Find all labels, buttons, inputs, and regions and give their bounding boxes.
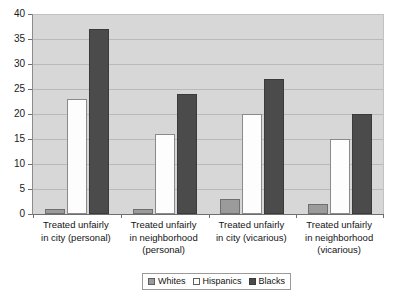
x-axis-labels: Treated unfairlyin city (personal)Treate… — [32, 219, 383, 267]
y-axis-tick-label: 20 — [14, 109, 25, 119]
y-axis-tick-label: 0 — [19, 209, 25, 219]
y-axis-tick-label: 15 — [14, 134, 25, 144]
legend-swatch-whites — [148, 278, 155, 285]
x-axis-category-label-line: (vicarious) — [295, 244, 383, 257]
y-axis-tick-label: 40 — [14, 9, 25, 19]
bar-blacks — [264, 79, 284, 214]
legend-label-blacks: Blacks — [259, 277, 286, 286]
x-axis-category-label-line: in neighborhood — [295, 232, 383, 245]
x-axis-category-label-line: in city (personal) — [32, 232, 120, 245]
chart-legend: WhitesHispanicsBlacks — [142, 273, 291, 290]
bar-group — [33, 14, 121, 214]
bar-blacks — [177, 94, 197, 214]
x-axis-category-label-line: Treated unfairly — [120, 219, 208, 232]
x-axis-tick-mark — [33, 214, 34, 218]
x-axis-tick-mark — [383, 214, 384, 218]
bar-whites — [308, 204, 328, 214]
legend-label-whites: Whites — [158, 277, 186, 286]
bar-whites — [220, 199, 240, 214]
x-axis-category-label-line: Treated unfairly — [295, 219, 383, 232]
legend-item-whites: Whites — [148, 277, 186, 286]
y-axis-tick-label: 25 — [14, 84, 25, 94]
x-axis-tick-mark — [121, 214, 122, 218]
legend-item-hispanics: Hispanics — [193, 277, 242, 286]
x-axis-category-label-line: in city (vicarious) — [208, 232, 296, 245]
x-axis-category-label: Treated unfairlyin city (vicarious) — [208, 219, 296, 244]
y-axis-tick-label: 10 — [14, 159, 25, 169]
bar-blacks — [352, 114, 372, 214]
legend-swatch-hispanics — [193, 278, 200, 285]
x-axis-category-label-line: in neighborhood — [120, 232, 208, 245]
y-axis: 0510152025303540 — [0, 0, 32, 225]
bar-whites — [45, 209, 65, 214]
bar-group — [121, 14, 209, 214]
bar-group — [296, 14, 384, 214]
plot-area — [32, 14, 384, 215]
x-axis-tick-mark — [296, 214, 297, 218]
bar-blacks — [89, 29, 109, 214]
x-axis-tick-mark — [209, 214, 210, 218]
x-axis-category-label: Treated unfairlyin neighborhood(vicariou… — [295, 219, 383, 257]
x-axis-category-label-line: (personal) — [120, 244, 208, 257]
bar-hispanics — [155, 134, 175, 214]
bar-group — [209, 14, 297, 214]
legend-item-blacks: Blacks — [249, 277, 286, 286]
x-axis-category-label: Treated unfairlyin neighborhood(personal… — [120, 219, 208, 257]
bar-hispanics — [330, 139, 350, 214]
legend-swatch-blacks — [249, 278, 256, 285]
x-axis-category-label-line: Treated unfairly — [208, 219, 296, 232]
x-axis-category-label-line: Treated unfairly — [32, 219, 120, 232]
bar-chart: 0510152025303540 Treated unfairlyin city… — [0, 0, 393, 292]
x-axis-category-label: Treated unfairlyin city (personal) — [32, 219, 120, 244]
bar-hispanics — [242, 114, 262, 214]
y-axis-tick-label: 5 — [19, 184, 25, 194]
legend-label-hispanics: Hispanics — [203, 277, 242, 286]
bar-whites — [133, 209, 153, 214]
y-axis-tick-label: 35 — [14, 34, 25, 44]
bar-hispanics — [67, 99, 87, 214]
bars-layer — [33, 14, 384, 214]
y-axis-tick-label: 30 — [14, 59, 25, 69]
